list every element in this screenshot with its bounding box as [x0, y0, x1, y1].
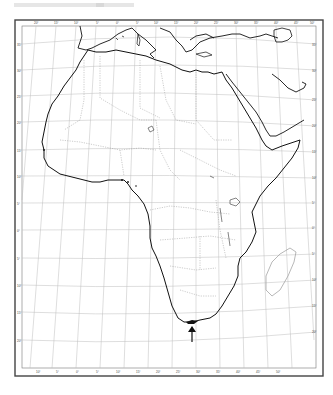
longitude-labels-top: 20° 15° 10° 5° 0° 5° 10° 15° 20° 25° 30°… — [34, 21, 315, 25]
svg-text:35°: 35° — [216, 370, 221, 374]
svg-text:10°: 10° — [74, 21, 79, 25]
svg-text:45°: 45° — [256, 370, 261, 374]
svg-text:25°: 25° — [176, 370, 181, 374]
latitude-labels-left: 35° 30° 25° 20° 15° 10° 5° 0° 5° 10° 15°… — [17, 43, 22, 343]
svg-text:10°: 10° — [312, 278, 317, 282]
svg-text:20°: 20° — [194, 21, 199, 25]
outer-frame — [15, 20, 323, 376]
svg-text:20°: 20° — [312, 124, 317, 128]
svg-text:10°: 10° — [154, 21, 159, 25]
svg-text:10°: 10° — [312, 176, 317, 180]
svg-text:0°: 0° — [17, 229, 21, 233]
svg-text:20°: 20° — [312, 330, 317, 334]
longitude-labels-bottom: 10° 5° 0° 5° 10° 15° 20° 25° 30° 35° 40°… — [36, 370, 281, 374]
svg-text:30°: 30° — [17, 69, 22, 73]
svg-text:5°: 5° — [17, 257, 21, 261]
svg-text:15°: 15° — [17, 311, 22, 315]
latitude-labels-right: 35° 30° 25° 20° 15° 10° 5° 0° 5° 10° 15°… — [312, 43, 317, 334]
svg-text:30°: 30° — [312, 69, 317, 73]
lake-chad — [148, 126, 154, 132]
inner-frame — [22, 26, 316, 368]
africa-outline-map: 20° 15° 10° 5° 0° 5° 10° 15° 20° 25° 30°… — [0, 0, 333, 395]
svg-text:20°: 20° — [34, 21, 39, 25]
svg-text:10°: 10° — [36, 370, 41, 374]
svg-text:0°: 0° — [116, 21, 120, 25]
svg-text:50°: 50° — [276, 370, 281, 374]
svg-text:15°: 15° — [54, 21, 59, 25]
graticule-meridians — [22, 26, 314, 368]
svg-text:25°: 25° — [17, 95, 22, 99]
svg-text:25°: 25° — [312, 98, 317, 102]
svg-text:5°: 5° — [96, 370, 100, 374]
svg-text:15°: 15° — [136, 370, 141, 374]
svg-text:5°: 5° — [17, 202, 21, 206]
svg-text:35°: 35° — [254, 21, 259, 25]
svg-text:20°: 20° — [17, 339, 22, 343]
svg-text:15°: 15° — [174, 21, 179, 25]
svg-text:35°: 35° — [17, 43, 22, 47]
svg-text:15°: 15° — [312, 304, 317, 308]
svg-text:30°: 30° — [196, 370, 201, 374]
svg-text:0°: 0° — [76, 370, 80, 374]
svg-text:30°: 30° — [234, 21, 239, 25]
svg-text:5°: 5° — [96, 21, 100, 25]
europe-coastline — [78, 26, 278, 58]
svg-text:20°: 20° — [156, 370, 161, 374]
svg-text:15°: 15° — [312, 150, 317, 154]
svg-text:5°: 5° — [56, 370, 60, 374]
svg-text:25°: 25° — [214, 21, 219, 25]
svg-text:10°: 10° — [17, 284, 22, 288]
great-lakes — [210, 176, 240, 246]
svg-text:40°: 40° — [236, 370, 241, 374]
svg-text:45°: 45° — [294, 21, 299, 25]
svg-text:40°: 40° — [274, 21, 279, 25]
svg-text:15°: 15° — [17, 149, 22, 153]
arrow-icon — [188, 326, 196, 342]
svg-text:50°: 50° — [310, 21, 315, 25]
africa-coastline — [42, 50, 300, 322]
svg-text:20°: 20° — [17, 121, 22, 125]
svg-text:5°: 5° — [136, 21, 140, 25]
svg-text:10°: 10° — [116, 370, 121, 374]
svg-text:35°: 35° — [312, 43, 317, 47]
svg-text:10°: 10° — [17, 175, 22, 179]
